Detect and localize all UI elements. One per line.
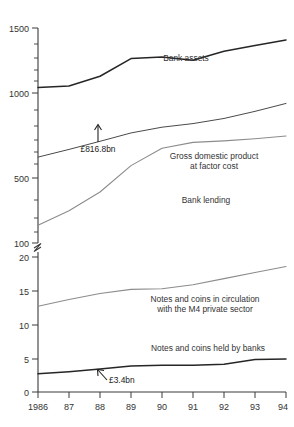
series-group: [38, 40, 286, 374]
annotation-label-notes-held-by-banks: £3.4bn: [109, 375, 135, 385]
series-label-bank-assets: Bank assets: [163, 53, 209, 63]
x-axis: 1986 87 88 89 90 91 92 93 94: [28, 392, 288, 412]
x-tick-label-1986: 1986: [28, 402, 48, 412]
y-axis: 1500 1000 500 100 20 15 10 5 0: [9, 24, 41, 398]
axis-break-zigzag: [34, 244, 41, 252]
annotation-notes-held-by-banks: £3.4bn: [98, 370, 135, 386]
series-bank-lending: [38, 136, 286, 225]
series-label-notes-circulation-line2: with the M4 private sector: [156, 304, 253, 314]
y-tick-label-10: 10: [19, 321, 29, 331]
series-notes-coins-held-by-banks: [38, 359, 286, 374]
y-tick-label-1500: 1500: [9, 24, 29, 34]
x-tick-label-90: 90: [157, 402, 167, 412]
annotation-label-bank-assets: £816.8bn: [81, 144, 116, 154]
y-tick-label-100: 100: [14, 239, 29, 249]
y-ticks-upper-minor: [34, 44, 38, 232]
x-tick-label-88: 88: [95, 402, 105, 412]
y-tick-label-5: 5: [24, 355, 29, 365]
x-tick-label-87: 87: [64, 402, 74, 412]
y-tick-label-0: 0: [24, 388, 29, 398]
series-label-bank-lending: Bank lending: [182, 195, 231, 205]
y-tick-label-20: 20: [19, 253, 29, 263]
series-label-notes-held-by-banks: Notes and coins held by banks: [151, 343, 265, 353]
annotation-arrow-upleft-icon: [98, 370, 107, 380]
y-ticks-upper-major: [32, 28, 38, 243]
x-ticks: [38, 392, 286, 398]
series-label-gdp-line1: Gross domestic product: [170, 151, 259, 161]
y-tick-label-500: 500: [14, 174, 29, 184]
series-label-gdp-line2: at factor cost: [190, 161, 239, 171]
series-gdp-factor-cost: [38, 103, 286, 157]
x-tick-label-91: 91: [188, 402, 198, 412]
series-bank-assets: [38, 40, 286, 87]
series-labels: Bank assets Gross domestic product at fa…: [151, 53, 266, 353]
line-chart-canvas: 1500 1000 500 100 20 15 10 5 0: [0, 0, 294, 427]
x-tick-label-93: 93: [250, 402, 260, 412]
chart-figure: 1500 1000 500 100 20 15 10 5 0: [0, 0, 294, 427]
series-label-notes-circulation-line1: Notes and coins in circulation: [151, 294, 260, 304]
y-tick-label-1000: 1000: [9, 89, 29, 99]
x-tick-label-92: 92: [219, 402, 229, 412]
x-tick-label-89: 89: [126, 402, 136, 412]
annotation-bank-assets: £816.8bn: [81, 125, 116, 155]
y-ticks-lower-major: [32, 257, 38, 392]
x-tick-label-94: 94: [278, 402, 288, 412]
y-tick-label-15: 15: [19, 287, 29, 297]
